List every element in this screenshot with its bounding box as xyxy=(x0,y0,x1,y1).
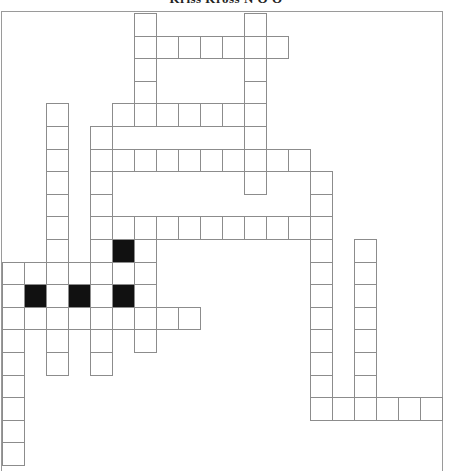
letter-cell[interactable] xyxy=(266,149,289,173)
letter-cell[interactable] xyxy=(2,329,25,353)
letter-cell[interactable] xyxy=(244,103,267,127)
letter-cell[interactable] xyxy=(266,216,289,240)
letter-cell[interactable] xyxy=(112,262,135,286)
letter-cell[interactable] xyxy=(244,216,267,240)
letter-cell[interactable] xyxy=(46,194,69,218)
letter-cell[interactable] xyxy=(354,329,377,353)
letter-cell[interactable] xyxy=(134,262,157,286)
letter-cell[interactable] xyxy=(134,149,157,173)
letter-cell[interactable] xyxy=(178,307,201,331)
letter-cell[interactable] xyxy=(90,194,113,218)
letter-cell[interactable] xyxy=(310,375,333,399)
letter-cell[interactable] xyxy=(2,284,25,308)
letter-cell[interactable] xyxy=(46,239,69,263)
letter-cell[interactable] xyxy=(310,397,333,421)
letter-cell[interactable] xyxy=(354,397,377,421)
letter-cell[interactable] xyxy=(354,352,377,376)
letter-cell[interactable] xyxy=(178,149,201,173)
letter-cell[interactable] xyxy=(90,307,113,331)
letter-cell[interactable] xyxy=(90,284,113,308)
letter-cell[interactable] xyxy=(156,149,179,173)
letter-cell[interactable] xyxy=(200,149,223,173)
letter-cell[interactable] xyxy=(2,397,25,421)
letter-cell[interactable] xyxy=(244,13,267,37)
letter-cell[interactable] xyxy=(2,352,25,376)
letter-cell[interactable] xyxy=(134,103,157,127)
letter-cell[interactable] xyxy=(90,171,113,195)
letter-cell[interactable] xyxy=(134,36,157,60)
letter-cell[interactable] xyxy=(134,81,157,105)
letter-cell[interactable] xyxy=(90,239,113,263)
letter-cell[interactable] xyxy=(178,36,201,60)
letter-cell[interactable] xyxy=(354,375,377,399)
letter-cell[interactable] xyxy=(24,262,47,286)
letter-cell[interactable] xyxy=(2,420,25,444)
letter-cell[interactable] xyxy=(310,284,333,308)
letter-cell[interactable] xyxy=(288,149,311,173)
letter-cell[interactable] xyxy=(222,103,245,127)
letter-cell[interactable] xyxy=(46,149,69,173)
letter-cell[interactable] xyxy=(310,216,333,240)
letter-cell[interactable] xyxy=(178,216,201,240)
letter-cell[interactable] xyxy=(134,307,157,331)
letter-cell[interactable] xyxy=(178,103,201,127)
letter-cell[interactable] xyxy=(46,126,69,150)
letter-cell[interactable] xyxy=(2,262,25,286)
letter-cell[interactable] xyxy=(310,194,333,218)
letter-cell[interactable] xyxy=(156,307,179,331)
letter-cell[interactable] xyxy=(398,397,421,421)
letter-cell[interactable] xyxy=(46,262,69,286)
letter-cell[interactable] xyxy=(112,216,135,240)
letter-cell[interactable] xyxy=(310,171,333,195)
letter-cell[interactable] xyxy=(46,103,69,127)
letter-cell[interactable] xyxy=(2,375,25,399)
letter-cell[interactable] xyxy=(134,58,157,82)
letter-cell[interactable] xyxy=(354,284,377,308)
letter-cell[interactable] xyxy=(2,442,25,466)
letter-cell[interactable] xyxy=(200,216,223,240)
letter-cell[interactable] xyxy=(332,397,355,421)
letter-cell[interactable] xyxy=(354,239,377,263)
letter-cell[interactable] xyxy=(376,397,399,421)
letter-cell[interactable] xyxy=(310,239,333,263)
letter-cell[interactable] xyxy=(310,352,333,376)
letter-cell[interactable] xyxy=(222,149,245,173)
letter-cell[interactable] xyxy=(46,352,69,376)
letter-cell[interactable] xyxy=(354,307,377,331)
letter-cell[interactable] xyxy=(24,307,47,331)
letter-cell[interactable] xyxy=(244,149,267,173)
letter-cell[interactable] xyxy=(90,126,113,150)
letter-cell[interactable] xyxy=(156,103,179,127)
letter-cell[interactable] xyxy=(222,36,245,60)
letter-cell[interactable] xyxy=(2,307,25,331)
letter-cell[interactable] xyxy=(134,13,157,37)
letter-cell[interactable] xyxy=(112,149,135,173)
letter-cell[interactable] xyxy=(244,58,267,82)
letter-cell[interactable] xyxy=(244,126,267,150)
letter-cell[interactable] xyxy=(90,352,113,376)
letter-cell[interactable] xyxy=(90,329,113,353)
letter-cell[interactable] xyxy=(156,216,179,240)
letter-cell[interactable] xyxy=(90,262,113,286)
letter-cell[interactable] xyxy=(46,307,69,331)
letter-cell[interactable] xyxy=(156,36,179,60)
letter-cell[interactable] xyxy=(244,36,267,60)
letter-cell[interactable] xyxy=(46,284,69,308)
letter-cell[interactable] xyxy=(310,329,333,353)
letter-cell[interactable] xyxy=(310,262,333,286)
letter-cell[interactable] xyxy=(134,216,157,240)
letter-cell[interactable] xyxy=(244,171,267,195)
letter-cell[interactable] xyxy=(288,216,311,240)
letter-cell[interactable] xyxy=(200,36,223,60)
letter-cell[interactable] xyxy=(112,103,135,127)
letter-cell[interactable] xyxy=(266,36,289,60)
letter-cell[interactable] xyxy=(68,307,91,331)
letter-cell[interactable] xyxy=(134,329,157,353)
letter-cell[interactable] xyxy=(68,262,91,286)
letter-cell[interactable] xyxy=(46,329,69,353)
letter-cell[interactable] xyxy=(420,397,443,421)
letter-cell[interactable] xyxy=(46,216,69,240)
letter-cell[interactable] xyxy=(200,103,223,127)
letter-cell[interactable] xyxy=(46,171,69,195)
letter-cell[interactable] xyxy=(134,284,157,308)
